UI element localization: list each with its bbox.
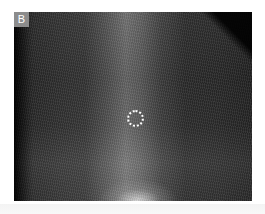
dotted-circle-marker-icon: [127, 110, 144, 127]
bottom-divider: [0, 204, 265, 214]
panel-label: B: [14, 12, 29, 27]
image-corner-shadow: [14, 12, 252, 201]
image-panel: B: [14, 12, 252, 201]
